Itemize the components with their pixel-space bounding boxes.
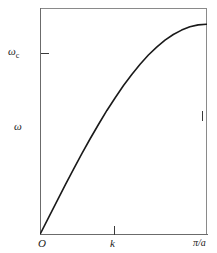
dispersion-curve bbox=[40, 8, 207, 235]
omega-c-glyph: ω bbox=[8, 45, 16, 57]
origin-label: O bbox=[38, 238, 46, 249]
x-axis-max-label: π/a bbox=[193, 238, 206, 248]
x-axis-title: k bbox=[110, 238, 115, 249]
dispersion-curve-path bbox=[41, 24, 207, 233]
y-axis-label-omega-c: ωc bbox=[8, 46, 19, 60]
omega-c-subscript: c bbox=[16, 51, 20, 60]
y-axis-title: ω bbox=[14, 121, 22, 132]
dispersion-relation-figure: ωc ω O k π/a bbox=[0, 0, 217, 253]
